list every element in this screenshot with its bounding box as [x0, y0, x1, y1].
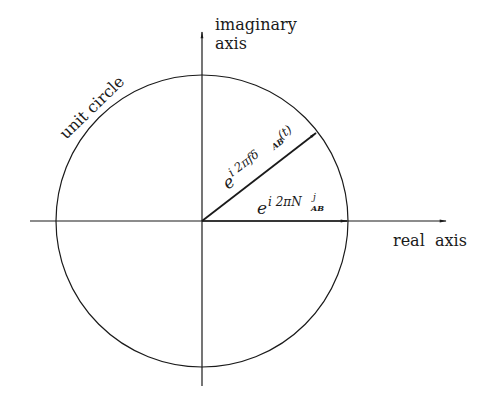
- imaginary-axis-label-line2: axis: [215, 34, 247, 53]
- ambiguity-vector-subscript: AB: [310, 203, 324, 213]
- phase-vector-label: e i 2πfδ AB (t): [217, 122, 301, 193]
- imaginary-axis-label-line1: imaginary: [215, 15, 297, 34]
- unit-circle-label: unit circle: [56, 72, 129, 143]
- real-axis-label: real axis: [393, 231, 467, 250]
- ambiguity-vector-exponent: i 2πN: [268, 195, 302, 209]
- ambiguity-vector-base: e: [257, 198, 267, 218]
- complex-plane-diagram: imaginary axis real axis unit circle e i…: [0, 0, 499, 404]
- ambiguity-vector-label: e i 2πN j AB: [257, 192, 324, 218]
- phase-vector-exponent: i 2πfδ: [225, 147, 261, 179]
- ambiguity-vector-superscript: j: [311, 192, 316, 202]
